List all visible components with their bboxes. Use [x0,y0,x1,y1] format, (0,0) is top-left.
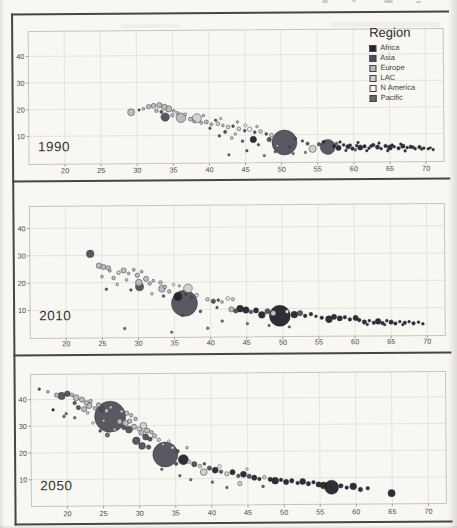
figure-three-panel-scatter: 202530354045505560657010203040 1990 Regi… [11,10,457,527]
svg-text:20: 20 [61,166,69,175]
svg-text:25: 25 [97,166,105,175]
svg-text:20: 20 [63,509,71,518]
legend-label: Asia [380,53,395,63]
svg-text:40: 40 [17,224,25,233]
legend-item-africa: Africa [369,43,415,53]
legend-label: N America [381,83,416,93]
svg-text:45: 45 [244,508,252,517]
svg-text:40: 40 [208,508,216,517]
svg-text:70: 70 [422,164,430,173]
svg-text:50: 50 [280,508,288,517]
svg-text:40: 40 [205,165,213,174]
svg-text:60: 60 [352,507,360,516]
scatter-plot-2050: 202530354045505560657010203040 [15,353,453,523]
panel-1990: 202530354045505560657010203040 1990 Regi… [13,12,451,180]
year-label-2010: 2010 [39,308,71,323]
legend-swatch-africa [369,45,376,52]
scan-artifact [352,0,356,2]
scanned-page: 202530354045505560657010203040 1990 Regi… [0,0,457,528]
svg-text:20: 20 [62,339,70,348]
legend-item-n-america: N America [370,83,416,93]
scatter-plot-2010: 202530354045505560657010203040 [14,179,452,354]
legend-swatch-n-america [370,85,377,92]
legend-item-asia: Asia [369,53,415,63]
svg-text:40: 40 [16,52,24,61]
page-edge-shadow [0,0,5,528]
legend-swatch-europe [369,65,376,72]
svg-text:10: 10 [19,475,27,484]
svg-text:20: 20 [19,449,27,458]
legend-item-europe: Europe [369,63,415,73]
svg-text:30: 30 [133,166,141,175]
svg-text:10: 10 [18,306,26,315]
svg-text:45: 45 [243,338,251,347]
svg-text:25: 25 [100,509,108,518]
svg-text:60: 60 [350,164,358,173]
year-label-2050: 2050 [40,478,72,493]
legend-label: LAC [380,73,395,83]
svg-text:65: 65 [387,337,395,346]
svg-text:20: 20 [18,279,26,288]
legend-item-pacific: Pacific [370,93,416,103]
svg-text:30: 30 [16,79,24,88]
legend-label: Africa [380,43,399,53]
svg-text:65: 65 [386,164,394,173]
panel-2050: 202530354045505560657010203040 2050 [15,353,453,523]
svg-text:30: 30 [134,339,142,348]
svg-text:70: 70 [423,337,431,346]
svg-text:30: 30 [18,251,26,260]
svg-text:55: 55 [314,164,322,173]
svg-text:35: 35 [171,338,179,347]
svg-text:45: 45 [242,165,250,174]
scan-artifact [384,0,393,3]
year-label-1990: 1990 [38,139,70,154]
legend-title: Region [369,25,415,40]
svg-text:25: 25 [98,339,106,348]
legend-label: Europe [380,63,404,73]
svg-text:55: 55 [315,337,323,346]
svg-text:10: 10 [17,132,25,141]
svg-text:60: 60 [351,337,359,346]
svg-text:20: 20 [17,105,25,114]
svg-text:35: 35 [172,508,180,517]
svg-text:50: 50 [278,165,286,174]
svg-text:40: 40 [207,338,215,347]
scan-artifact [416,1,421,3]
legend-swatch-pacific [370,95,377,102]
legend-label: Pacific [381,93,403,103]
legend-swatch-lac [369,75,376,82]
legend-item-lac: LAC [369,73,415,83]
legend-swatch-asia [369,55,376,62]
svg-text:30: 30 [19,422,27,431]
svg-text:30: 30 [136,509,144,518]
svg-text:35: 35 [169,165,177,174]
svg-text:70: 70 [424,507,432,516]
svg-text:50: 50 [279,338,287,347]
svg-text:55: 55 [316,507,324,516]
panel-2010: 202530354045505560657010203040 2010 [14,179,452,354]
svg-text:65: 65 [388,507,396,516]
region-legend: Region Africa Asia Europe LAC [369,25,415,103]
scan-artifact [322,0,328,3]
svg-text:40: 40 [19,395,27,404]
